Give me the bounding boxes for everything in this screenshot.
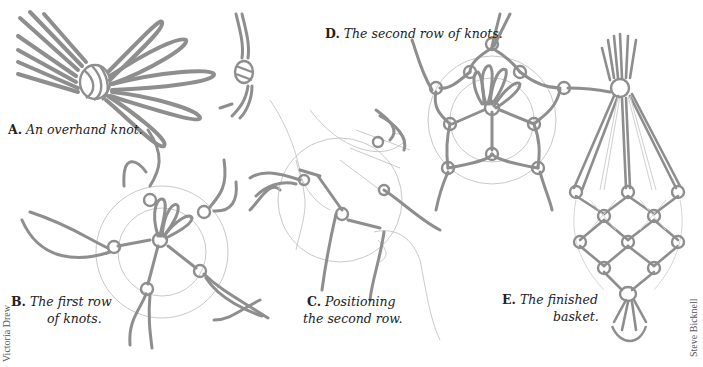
- caption-b-text-line2: of knots.: [47, 311, 102, 326]
- caption-d-text: The second row of knots.: [344, 26, 503, 41]
- caption-c-line2: the second row.: [303, 311, 403, 326]
- macrame-illustration: A. An overhand knot. B. The first row of…: [0, 0, 703, 367]
- caption-e-line2: basket.: [553, 309, 599, 324]
- panel-d-second-row-drawing: [412, 14, 610, 210]
- caption-e-text-line2: basket.: [553, 309, 599, 324]
- caption-e-letter: E.: [502, 292, 516, 307]
- caption-a-text: An overhand knot.: [26, 122, 143, 137]
- caption-a: A. An overhand knot.: [8, 122, 143, 137]
- caption-c-text-line1: Positioning: [325, 294, 396, 309]
- caption-b-letter: B.: [11, 294, 26, 309]
- caption-e-text-line1: The finished: [520, 292, 598, 307]
- caption-c: C. Positioning: [307, 294, 396, 309]
- caption-e: E. The finished: [502, 292, 598, 307]
- credit-right: Steve Bicknell: [688, 298, 699, 357]
- caption-b-line2: of knots.: [47, 311, 102, 326]
- caption-a-letter: A.: [8, 122, 22, 137]
- caption-c-text-line2: the second row.: [303, 311, 403, 326]
- credit-left: Victoria Drew: [1, 305, 12, 362]
- caption-b-text-line1: The first row: [30, 294, 112, 309]
- caption-d: D. The second row of knots.: [325, 26, 503, 41]
- caption-c-letter: C.: [307, 294, 321, 309]
- caption-b: B. The first row: [11, 294, 112, 309]
- caption-d-letter: D.: [325, 26, 340, 41]
- panel-a-small-knot-drawing: [220, 14, 253, 118]
